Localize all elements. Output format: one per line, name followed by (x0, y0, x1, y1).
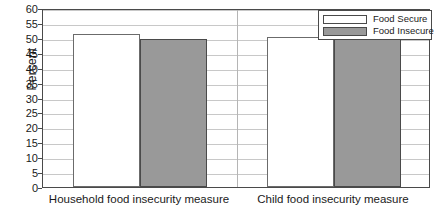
y-tick-label: 25 (12, 108, 38, 119)
group-separator (237, 10, 238, 187)
y-tick-mark (38, 173, 42, 174)
y-tick-mark (38, 24, 42, 25)
y-tick-label: 50 (12, 33, 38, 44)
y-tick-label: 0 (12, 183, 38, 194)
y-tick-mark (38, 113, 42, 114)
y-tick-label: 10 (12, 153, 38, 164)
y-tick-mark (38, 143, 42, 144)
legend-item-food-secure: Food Secure (323, 14, 427, 24)
legend-item-food-insecure: Food Insecure (323, 26, 427, 36)
y-tick-label: 15 (12, 138, 38, 149)
y-tick-mark (38, 84, 42, 85)
bar-food-secure-group-1 (267, 37, 334, 187)
y-tick-mark (38, 9, 42, 10)
bar-food-secure-group-0 (73, 34, 140, 187)
y-tick-label: 45 (12, 48, 38, 59)
bar-chart: Percent 605550454035302520151050 Househo… (0, 0, 439, 217)
y-tick-mark (38, 188, 42, 189)
legend-label-food-insecure: Food Insecure (373, 26, 434, 36)
y-tick-label: 20 (12, 123, 38, 134)
legend-swatch-food-insecure (323, 27, 367, 36)
y-tick-label: 60 (12, 4, 38, 15)
y-tick-label: 40 (12, 63, 38, 74)
legend-label-food-secure: Food Secure (373, 14, 427, 24)
x-axis-label-household: Household food insecurity measure (42, 193, 236, 205)
y-tick-mark (38, 54, 42, 55)
y-tick-label: 5 (12, 168, 38, 179)
bar-food-insecure-group-0 (140, 39, 207, 187)
x-axis-label-child: Child food insecurity measure (236, 193, 430, 205)
y-tick-mark (38, 158, 42, 159)
bar-food-insecure-group-1 (334, 38, 401, 187)
y-axis: 605550454035302520151050 (0, 0, 38, 217)
y-tick-mark (38, 128, 42, 129)
legend: Food Secure Food Insecure (318, 10, 432, 40)
y-tick-label: 35 (12, 78, 38, 89)
y-tick-mark (38, 39, 42, 40)
legend-swatch-food-secure (323, 15, 367, 24)
y-tick-mark (38, 69, 42, 70)
y-tick-label: 55 (12, 18, 38, 29)
y-tick-mark (38, 99, 42, 100)
y-tick-label: 30 (12, 93, 38, 104)
